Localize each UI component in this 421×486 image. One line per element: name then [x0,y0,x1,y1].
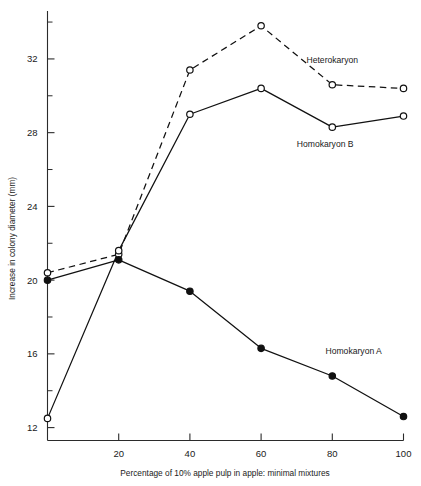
series-annotation-homokaryon-a: Homokaryon A [325,346,382,356]
series-annotation-homokaryon-b: Homokaryon B [297,139,354,149]
data-point-homokaryon-a [187,288,193,294]
data-point-homokaryon-b [116,247,122,253]
axes [48,11,404,441]
y-tick-label: 32 [27,53,38,64]
chart-figure: 121620242832 20406080100 HeterokaryonHom… [0,0,421,486]
data-point-homokaryon-a [400,413,406,419]
series-lines [48,26,404,419]
x-axis-title: Percentage of 10% apple pulp in apple: m… [120,468,329,478]
data-point-heterokaryon [329,82,335,88]
data-point-homokaryon-b [329,124,335,130]
y-axis-title: Increase in colony diameter (mm) [7,177,17,300]
data-point-homokaryon-b [258,85,264,91]
x-tick-label: 100 [396,448,412,459]
x-axis-tick-labels: 20406080100 [113,448,411,459]
data-point-homokaryon-a [116,257,122,263]
x-tick-label: 20 [113,448,124,459]
data-point-heterokaryon [44,270,50,276]
series-annotation-heterokaryon: Heterokaryon [307,55,359,65]
data-point-homokaryon-b [400,113,406,119]
data-point-homokaryon-b [187,111,193,117]
data-point-homokaryon-b [44,415,50,421]
series-annotations: HeterokaryonHomokaryon BHomokaryon A [297,55,382,356]
y-tick-label: 20 [27,275,38,286]
series-markers [44,23,406,422]
data-point-homokaryon-a [258,345,264,351]
x-tick-label: 80 [327,448,338,459]
x-tick-label: 60 [256,448,267,459]
x-axis-major-ticks [119,434,404,441]
data-point-homokaryon-a [329,373,335,379]
line-chart: 121620242832 20406080100 HeterokaryonHom… [0,0,421,486]
data-point-homokaryon-a [44,277,50,283]
y-tick-label: 24 [27,201,38,212]
data-point-heterokaryon [258,23,264,29]
data-point-heterokaryon [400,85,406,91]
series-line-homokaryon-b [48,88,404,418]
y-axis-tick-labels: 121620242832 [27,53,38,433]
y-tick-label: 12 [27,422,38,433]
series-line-homokaryon-a [48,260,404,417]
y-tick-label: 28 [27,127,38,138]
x-tick-label: 40 [185,448,196,459]
data-point-heterokaryon [187,67,193,73]
y-tick-label: 16 [27,348,38,359]
